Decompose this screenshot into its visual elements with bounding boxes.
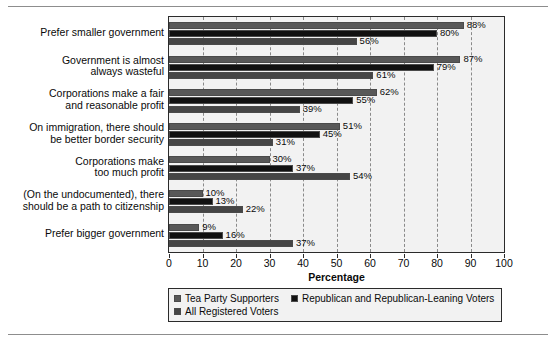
bar-row: 54%: [169, 173, 504, 180]
bar-value-label: 79%: [437, 61, 456, 73]
legend-item[interactable]: Tea Party Supporters: [174, 293, 279, 305]
bar-group: 9%16%37%: [169, 218, 504, 252]
y-axis-label-line: should be a path to citizenship: [4, 201, 164, 213]
x-axis-tick-label: 50: [322, 257, 352, 269]
x-axis-tick-label: 10: [188, 257, 218, 269]
top-divider-rule: [8, 6, 548, 7]
bar-value-label: 37%: [296, 162, 315, 174]
bar[interactable]: [169, 72, 373, 79]
bar[interactable]: [169, 131, 320, 138]
bar-value-label: 88%: [467, 19, 486, 31]
bar[interactable]: [169, 30, 437, 37]
bar-row: 31%: [169, 139, 504, 146]
bar-row: 55%: [169, 97, 504, 104]
bar-value-label: 61%: [376, 69, 395, 81]
bar-value-label: 80%: [440, 27, 459, 39]
y-axis-label: Corporations maketoo much profit: [4, 156, 164, 179]
bar-value-label: 30%: [273, 153, 292, 165]
legend-row-primary: Tea Party SupportersRepublican and Repub…: [174, 292, 496, 305]
bar-value-label: 87%: [463, 53, 482, 65]
bar-value-label: 51%: [343, 120, 362, 132]
legend-item-label: Republican and Republican-Leaning Voters: [302, 293, 494, 305]
bar-group: 62%55%39%: [169, 84, 504, 118]
bar-row: 45%: [169, 131, 504, 138]
bar-row: 9%: [169, 224, 504, 231]
y-axis-label: Prefer smaller government: [4, 27, 164, 39]
x-axis-tick-label: 70: [389, 257, 419, 269]
bar[interactable]: [169, 165, 293, 172]
bar-row: 79%: [169, 64, 504, 71]
bar-value-label: 16%: [226, 229, 245, 241]
bar-row: 80%: [169, 30, 504, 37]
bar[interactable]: [169, 173, 350, 180]
y-axis-label-line: be better border security: [4, 134, 164, 146]
legend-item[interactable]: All Registered Voters: [174, 306, 278, 318]
bar-group: 51%45%31%: [169, 118, 504, 152]
bar[interactable]: [169, 198, 213, 205]
y-axis-label-line: (On the undocumented), there: [4, 189, 164, 201]
x-axis-tick-label: 20: [221, 257, 251, 269]
bar-row: 56%: [169, 38, 504, 45]
bar[interactable]: [169, 106, 300, 113]
legend-swatch-icon: [174, 295, 181, 302]
bar[interactable]: [169, 56, 460, 63]
bar-value-label: 13%: [216, 195, 235, 207]
bar-group: 87%79%61%: [169, 51, 504, 85]
legend-item[interactable]: Republican and Republican-Leaning Voters: [291, 293, 494, 305]
bar[interactable]: [169, 123, 340, 130]
y-axis-label: Prefer bigger government: [4, 228, 164, 240]
bar[interactable]: [169, 240, 293, 247]
x-axis-tick-label: 90: [456, 257, 486, 269]
bar[interactable]: [169, 97, 353, 104]
bar-row: 61%: [169, 72, 504, 79]
y-axis-label-line: and reasonable profit: [4, 100, 164, 112]
x-axis-tick-label: 30: [255, 257, 285, 269]
legend-row-secondary: All Registered Voters: [174, 305, 496, 318]
bar[interactable]: [169, 232, 223, 239]
bar-row: 30%: [169, 156, 504, 163]
bar-row: 39%: [169, 106, 504, 113]
bar[interactable]: [169, 22, 464, 29]
bar-value-label: 45%: [323, 128, 342, 140]
bar-value-label: 39%: [303, 103, 322, 115]
bar-row: 62%: [169, 89, 504, 96]
x-axis-tick-label: 80: [422, 257, 452, 269]
y-axis-label: On immigration, there shouldbe better bo…: [4, 122, 164, 145]
y-axis-label: (On the undocumented), thereshould be a …: [4, 189, 164, 212]
bar-row: 37%: [169, 240, 504, 247]
bar-group: 88%80%56%: [169, 17, 504, 51]
bar-row: 22%: [169, 206, 504, 213]
bar-value-label: 62%: [380, 86, 399, 98]
bar[interactable]: [169, 139, 273, 146]
y-axis-label: Government is almostalways wasteful: [4, 55, 164, 78]
y-axis-label-line: On immigration, there should: [4, 122, 164, 134]
bar[interactable]: [169, 89, 377, 96]
legend-swatch-icon: [291, 295, 298, 302]
bar-value-label: 56%: [360, 35, 379, 47]
legend-item-label: All Registered Voters: [185, 306, 278, 318]
y-axis-label-line: Prefer bigger government: [4, 228, 164, 240]
legend-swatch-icon: [174, 308, 181, 315]
bar-group: 10%13%22%: [169, 185, 504, 219]
x-axis-tick-label: 60: [355, 257, 385, 269]
bottom-divider-rule: [8, 334, 548, 335]
bar[interactable]: [169, 38, 357, 45]
bar-value-label: 54%: [353, 170, 372, 182]
bar-value-label: 55%: [356, 94, 375, 106]
bar[interactable]: [169, 224, 199, 231]
x-axis-title: Percentage: [168, 271, 505, 283]
x-axis-tick-label: 100: [489, 257, 519, 269]
bar-row: 16%: [169, 232, 504, 239]
legend-item-label: Tea Party Supporters: [185, 293, 279, 305]
bar-value-label: 22%: [246, 203, 265, 215]
bar-group: 30%37%54%: [169, 151, 504, 185]
bar-value-label: 31%: [276, 136, 295, 148]
y-axis-label-line: always wasteful: [4, 66, 164, 78]
bar[interactable]: [169, 156, 270, 163]
chart-legend: Tea Party SupportersRepublican and Repub…: [168, 288, 502, 322]
bar-row: 37%: [169, 165, 504, 172]
bar-value-label: 37%: [296, 237, 315, 249]
bar[interactable]: [169, 206, 243, 213]
bar[interactable]: [169, 190, 203, 197]
x-axis-tick-label: 0: [154, 257, 184, 269]
